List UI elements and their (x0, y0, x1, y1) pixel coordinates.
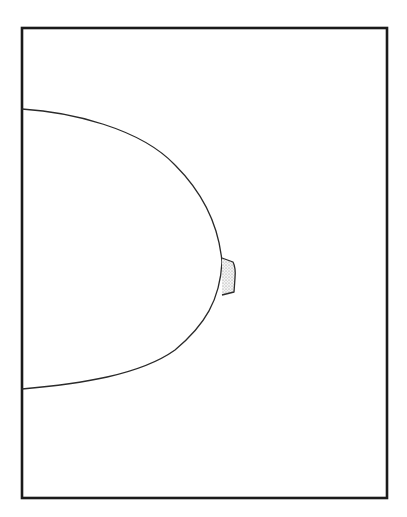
nipple-shape (222, 258, 235, 295)
breast-outline-diagram (0, 0, 407, 517)
breast-contour-curve (22, 109, 222, 389)
frame-border (22, 28, 387, 498)
